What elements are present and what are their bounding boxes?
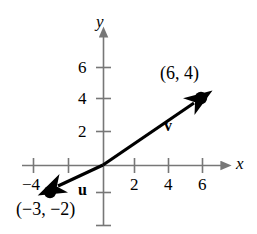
- y-tick-label-4: 4: [78, 90, 87, 107]
- x-tick-label-6: 6: [198, 176, 207, 193]
- x-tick-label--4: −4: [22, 176, 40, 193]
- point-minus3-minus2-dot: [44, 186, 56, 198]
- vector-u-label: u: [78, 182, 87, 198]
- x-tick-label-4: 4: [164, 176, 173, 193]
- point-6-4-dot: [195, 92, 207, 104]
- y-tick-label-2: 2: [78, 123, 87, 140]
- x-tick-label-2: 2: [130, 176, 139, 193]
- y-tick-label-6: 6: [78, 59, 87, 76]
- y-axis-label: y: [96, 13, 104, 30]
- vector-v-label: v: [164, 118, 172, 134]
- vector-diagram-figure: y x 6 4 2 −4 2 4 6 (6, 4) (−3, −2) v u: [0, 0, 257, 234]
- vector-v-line: [103, 103, 194, 165]
- x-axis-label: x: [236, 155, 244, 172]
- point-tail-label: (−3, −2): [16, 200, 75, 218]
- point-head-label: (6, 4): [160, 64, 199, 82]
